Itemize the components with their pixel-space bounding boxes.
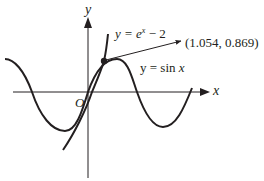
- x-axis-arrow-icon: [200, 88, 210, 96]
- exponential-equation-label: y = ex − 2: [115, 27, 166, 40]
- origin-label: O: [75, 96, 84, 109]
- x-axis: [13, 88, 210, 96]
- y-axis-label: y: [85, 3, 91, 17]
- intersection-pointer-arrow: [106, 41, 181, 60]
- exp-eq-suffix: − 2: [145, 26, 165, 41]
- x-axis-label: x: [213, 84, 219, 98]
- y-axis-arrow-icon: [84, 17, 92, 28]
- intersection-point: [101, 58, 107, 64]
- intersection-coordinates-label: (1.054, 0.869): [185, 36, 259, 49]
- sine-eq-prefix: y = sin: [140, 60, 179, 75]
- sine-equation-label: y = sin x: [140, 61, 185, 74]
- exp-eq-prefix: y = e: [115, 26, 142, 41]
- sine-eq-var: x: [179, 60, 185, 75]
